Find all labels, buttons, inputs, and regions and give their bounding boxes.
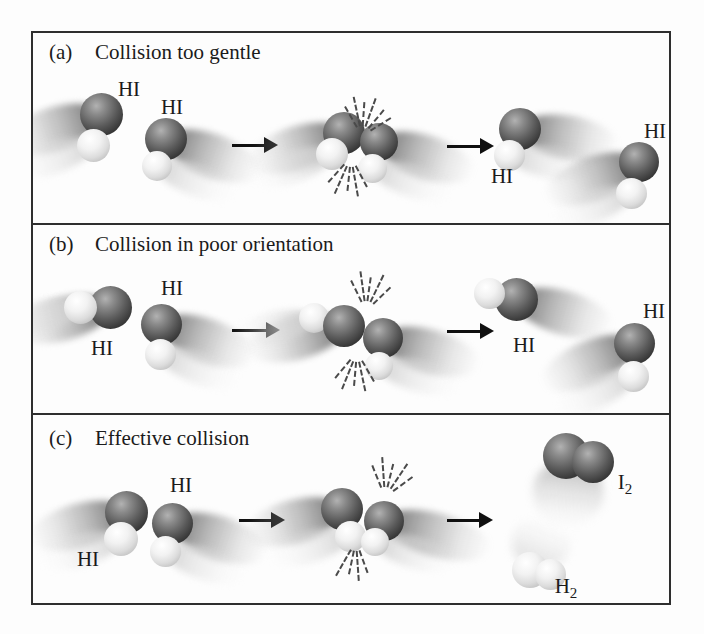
i2-label: I2 bbox=[618, 472, 633, 493]
hi-label: HI bbox=[91, 338, 113, 359]
hydrogen-atom bbox=[64, 291, 97, 324]
h2-label: H2 bbox=[555, 576, 578, 597]
hydrogen-atom bbox=[77, 129, 110, 162]
panel-a: (a) Collision too gentle HI HI bbox=[33, 33, 669, 225]
hi-label: HI bbox=[170, 475, 192, 496]
hi-label: HI bbox=[644, 121, 666, 142]
iodine-atom bbox=[614, 323, 655, 364]
hi-label: HI bbox=[491, 166, 513, 187]
hydrogen-atom bbox=[474, 278, 505, 309]
hi-label: HI bbox=[77, 549, 99, 570]
hi-label: HI bbox=[161, 278, 183, 299]
hydrogen-atom bbox=[145, 339, 176, 370]
iodine-atom bbox=[323, 305, 365, 347]
panel-b-title: Collision in poor orientation bbox=[95, 232, 334, 257]
panel-b: (b) Collision in poor orientation HI HI bbox=[33, 225, 669, 415]
hydrogen-atom bbox=[104, 522, 138, 556]
iodine-atom bbox=[619, 142, 659, 182]
hydrogen-atom bbox=[618, 361, 649, 392]
panel-c: (c) Effective collision HI HI bbox=[33, 415, 669, 603]
panel-c-title: Effective collision bbox=[95, 426, 249, 451]
hi-label: HI bbox=[643, 301, 665, 322]
hi-label: HI bbox=[118, 79, 140, 100]
hydrogen-atom bbox=[142, 151, 172, 181]
hydrogen-atom bbox=[150, 536, 181, 567]
reaction-arrow-icon bbox=[447, 323, 494, 339]
iodine-atom bbox=[572, 441, 614, 483]
hi-label: HI bbox=[161, 97, 183, 118]
panel-a-title: Collision too gentle bbox=[95, 40, 261, 65]
panel-a-tag: (a) bbox=[49, 40, 72, 65]
reaction-arrow-icon bbox=[447, 512, 493, 528]
panel-b-tag: (b) bbox=[49, 232, 74, 257]
reaction-arrow-icon bbox=[447, 138, 494, 154]
hydrogen-atom bbox=[361, 528, 389, 556]
collision-theory-figure: (a) Collision too gentle HI HI bbox=[31, 31, 671, 605]
textbook-figure-page: (a) Collision too gentle HI HI bbox=[0, 0, 704, 634]
hydrogen-atom bbox=[616, 178, 647, 209]
hi-label: HI bbox=[513, 335, 535, 356]
panel-c-tag: (c) bbox=[49, 426, 72, 451]
